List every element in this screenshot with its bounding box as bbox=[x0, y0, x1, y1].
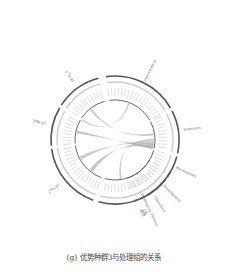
tick-mark bbox=[67, 120, 74, 123]
tick-mark bbox=[93, 93, 96, 100]
ring-inner-fir bbox=[167, 114, 173, 152]
tick-mark bbox=[78, 103, 84, 109]
tick-mark bbox=[72, 165, 79, 169]
tick-mark bbox=[133, 180, 136, 187]
tick-mark bbox=[137, 178, 141, 185]
chord-link bbox=[77, 131, 154, 150]
tick-mark bbox=[91, 179, 95, 186]
ring-core-chl bbox=[135, 172, 140, 175]
ring-core-ck bbox=[105, 160, 150, 180]
tick-mark bbox=[136, 179, 140, 186]
tick-mark bbox=[87, 177, 91, 184]
tick-mark bbox=[118, 88, 119, 96]
tick-mark bbox=[151, 111, 158, 115]
figure-caption: (g) 优势种群3与处理组的关系 bbox=[0, 251, 228, 262]
ring-g2 bbox=[61, 78, 98, 105]
tick-mark bbox=[97, 181, 100, 189]
tick-mark bbox=[121, 89, 122, 97]
ring-inner-chl bbox=[144, 186, 151, 191]
tick-mark bbox=[138, 96, 142, 103]
tick-mark bbox=[63, 134, 71, 135]
ring-core-g2 bbox=[81, 101, 104, 118]
tick-mark bbox=[158, 130, 166, 132]
tick-mark bbox=[138, 177, 142, 184]
tick-mark bbox=[127, 90, 129, 98]
tick-mark bbox=[121, 184, 122, 192]
tick-mark bbox=[90, 95, 94, 102]
tick-mark bbox=[66, 154, 74, 156]
tick-mark bbox=[67, 156, 74, 159]
tick-mark bbox=[71, 112, 78, 116]
tick-mark bbox=[141, 176, 146, 182]
tick-mark bbox=[96, 91, 99, 98]
ring-g1 bbox=[52, 149, 93, 200]
tick-mark bbox=[133, 92, 136, 99]
ring-bac bbox=[167, 157, 176, 177]
tick-mark bbox=[130, 91, 133, 99]
tick-mark bbox=[84, 98, 89, 104]
ring-inner-g3 bbox=[57, 111, 65, 145]
tick-mark bbox=[79, 172, 85, 178]
tick-mark bbox=[136, 94, 140, 101]
tick-mark bbox=[159, 144, 167, 145]
ring-inner-g2 bbox=[66, 84, 100, 108]
tick-mark bbox=[63, 144, 71, 145]
tick-mark bbox=[87, 96, 91, 103]
tick-mark bbox=[64, 148, 72, 149]
tick-mark bbox=[108, 184, 109, 192]
ring-core-act bbox=[109, 100, 149, 120]
tick-mark bbox=[156, 157, 163, 160]
tick-mark bbox=[156, 120, 163, 123]
tick-mark bbox=[148, 169, 154, 174]
tick-mark bbox=[118, 184, 119, 192]
label-pro: Proteobacteria bbox=[162, 183, 182, 203]
tick-mark bbox=[66, 123, 74, 126]
tick-mark bbox=[159, 134, 167, 135]
label-g3: 29‰ g3 bbox=[32, 118, 46, 126]
circos-chord-diagram: 27‰ g129‰ g327‰ g2CKActinobacteriaFirmic… bbox=[0, 0, 228, 250]
ring-core-pro bbox=[141, 165, 147, 171]
label-g1: 27‰ g1 bbox=[47, 182, 60, 194]
tick-mark bbox=[65, 151, 73, 153]
label-act: Actinobacteria bbox=[143, 59, 158, 83]
tick-mark bbox=[111, 88, 112, 96]
ring-core-dei bbox=[131, 175, 134, 177]
tick-mark bbox=[142, 175, 147, 181]
tick-mark bbox=[65, 127, 73, 129]
tick-mark bbox=[143, 100, 148, 106]
tick-mark bbox=[68, 159, 75, 163]
tick-mark bbox=[146, 103, 152, 109]
label-chl: Chloroflexi bbox=[153, 195, 168, 214]
tick-mark bbox=[64, 130, 72, 132]
ring-oth bbox=[135, 199, 139, 201]
tick-mark bbox=[158, 127, 166, 129]
ring-chl bbox=[147, 190, 154, 195]
tick-mark bbox=[148, 105, 154, 110]
tick-mark bbox=[141, 98, 146, 104]
tick-mark bbox=[76, 106, 82, 111]
tick-mark bbox=[157, 123, 165, 126]
tick-mark bbox=[158, 151, 166, 153]
label-g2: 27‰ g2 bbox=[65, 69, 77, 82]
tick-mark bbox=[104, 183, 106, 191]
ring-core-bac bbox=[148, 150, 154, 163]
tick-mark bbox=[84, 176, 89, 182]
tick-mark bbox=[108, 89, 109, 97]
tick-mark bbox=[111, 184, 112, 192]
tick-mark bbox=[69, 116, 76, 120]
tick-mark bbox=[100, 90, 102, 98]
chords bbox=[77, 103, 154, 178]
label-bac: Bacteroidetes bbox=[175, 165, 197, 179]
tick-mark bbox=[140, 176, 144, 183]
ring-inner-bac bbox=[163, 155, 172, 173]
tick-mark bbox=[124, 89, 126, 97]
tick-mark bbox=[94, 180, 97, 187]
tick-mark bbox=[74, 167, 80, 172]
tick-mark bbox=[157, 154, 165, 157]
tick-mark bbox=[143, 174, 148, 180]
tick-mark bbox=[76, 169, 82, 174]
tick-mark bbox=[70, 162, 77, 166]
tick-mark bbox=[82, 174, 87, 180]
ring-inner-oth bbox=[133, 194, 137, 195]
label-fir: Firmicutes bbox=[183, 125, 201, 132]
